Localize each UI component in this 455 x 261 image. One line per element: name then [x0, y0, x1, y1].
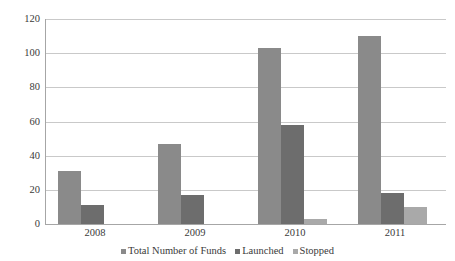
y-axis: 020406080100120 — [0, 19, 40, 224]
plot-area — [45, 19, 446, 225]
bar-group — [346, 19, 446, 224]
bar-chart: 020406080100120 2008200920102011 Total N… — [0, 0, 455, 261]
legend-swatch-icon — [293, 249, 298, 254]
y-tick-label: 40 — [4, 151, 40, 161]
bar — [58, 171, 81, 224]
y-tick-label: 60 — [4, 117, 40, 127]
chart-legend: Total Number of FundsLaunchedStopped — [0, 244, 455, 258]
bar — [281, 125, 304, 224]
y-tick-label: 80 — [4, 82, 40, 92]
legend-label: Stopped — [300, 245, 334, 257]
bar — [81, 205, 104, 224]
bar-group — [146, 19, 246, 224]
x-tick-label: 2009 — [145, 226, 245, 240]
legend-label: Total Number of Funds — [128, 245, 226, 257]
bar — [158, 144, 181, 224]
x-tick-label: 2010 — [245, 226, 345, 240]
bar — [404, 207, 427, 224]
x-axis: 2008200920102011 — [45, 226, 445, 242]
bar-group — [246, 19, 346, 224]
bar-group — [46, 19, 146, 224]
y-tick-label: 0 — [4, 219, 40, 229]
x-tick-label: 2011 — [345, 226, 445, 240]
legend-swatch-icon — [121, 249, 126, 254]
bar — [358, 36, 381, 224]
y-tick-label: 20 — [4, 185, 40, 195]
x-tick-label: 2008 — [45, 226, 145, 240]
bar — [258, 48, 281, 224]
y-tick-label: 120 — [4, 14, 40, 24]
bar — [304, 219, 327, 224]
legend-swatch-icon — [235, 249, 240, 254]
bar — [181, 195, 204, 224]
legend-item[interactable]: Total Number of Funds — [121, 245, 226, 257]
legend-label: Launched — [242, 245, 283, 257]
y-tick-label: 100 — [4, 48, 40, 58]
legend-item[interactable]: Stopped — [293, 245, 334, 257]
bar — [381, 193, 404, 224]
legend-item[interactable]: Launched — [235, 245, 283, 257]
